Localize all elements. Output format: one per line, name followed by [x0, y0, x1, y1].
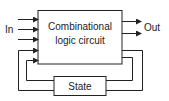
- state-label: State: [68, 81, 92, 92]
- output-arrows: [122, 22, 141, 34]
- block-label-line1: Combinational: [48, 21, 112, 32]
- input-label: In: [5, 24, 13, 35]
- input-arrows: [18, 20, 38, 40]
- block-label-line2: logic circuit: [55, 35, 105, 46]
- output-label: Out: [144, 22, 160, 33]
- sequential-circuit-diagram: Combinational logic circuit In Out State: [0, 0, 169, 101]
- state-block: State: [54, 77, 106, 96]
- combinational-logic-block: Combinational logic circuit: [38, 11, 122, 65]
